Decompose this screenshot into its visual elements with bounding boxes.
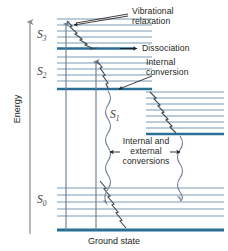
wavy-end-arrowheads xyxy=(103,196,184,206)
annotation-conversions-line3: conversions xyxy=(118,156,174,166)
annotation-conversions-line1: Internal and xyxy=(118,136,174,146)
annotation-dissociation: Dissociation xyxy=(142,43,190,53)
state-label-s0: S0 xyxy=(37,193,46,208)
ground-state-label: Ground state xyxy=(0,236,228,246)
annotation-vibrational-relaxation: Vibrational relaxation xyxy=(132,6,174,26)
absorption-arrows xyxy=(66,24,96,230)
pointer-internal-conversion xyxy=(119,76,152,89)
energy-axis-label: Energy xyxy=(12,79,22,139)
diagram-canvas xyxy=(0,0,228,251)
annotation-vibrational-relaxation-line1: Vibrational xyxy=(132,6,174,16)
s0-vibrational-levels xyxy=(57,188,224,216)
annotation-vibrational-relaxation-line2: relaxation xyxy=(132,16,174,26)
annotation-conversions-line2: external xyxy=(118,146,174,156)
annotation-internal-external-conversions: Internal and external conversions xyxy=(118,136,174,166)
state-label-s2: S2 xyxy=(37,65,46,80)
s1-vibrational-levels xyxy=(146,92,224,128)
annotation-internal-conversion-line1: Internal xyxy=(146,57,189,67)
state-label-s1: S1 xyxy=(110,108,119,123)
jablonski-diagram-figure: Energy S3 S2 S1 S0 Vibrational relaxatio… xyxy=(0,0,228,251)
annotation-internal-conversion: Internal conversion xyxy=(146,57,189,77)
annotation-internal-conversion-line2: conversion xyxy=(146,67,189,77)
state-label-s3: S3 xyxy=(37,28,46,43)
